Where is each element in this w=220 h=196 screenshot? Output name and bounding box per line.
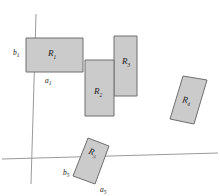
rectangle-R5[interactable] xyxy=(73,138,109,184)
rectangle-R3[interactable] xyxy=(114,36,137,96)
side-label-a5: a5 xyxy=(100,185,107,195)
side-label-b5: b5 xyxy=(63,168,70,178)
side-label-b1: b1 xyxy=(13,48,20,58)
geometry-figure: R1 R2 R3 R4 R5 b1 a1 b5 xyxy=(0,0,220,196)
figure-canvas: R1 R2 R3 R4 R5 b1 a1 b5 xyxy=(0,0,220,196)
horizontal-axis xyxy=(2,153,218,159)
side-label-a1: a1 xyxy=(45,76,52,86)
rectangle-R2[interactable] xyxy=(85,60,114,116)
